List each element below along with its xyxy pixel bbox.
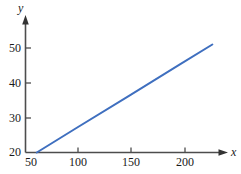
y-tick-label-50: 50	[0, 41, 21, 56]
x-tick-label-50: 50	[25, 155, 37, 170]
x-tick-label-150: 150	[122, 155, 140, 170]
y-axis-arrowhead	[22, 15, 29, 25]
x-tick-label-100: 100	[69, 155, 87, 170]
y-tick-label-20: 20	[0, 145, 21, 160]
x-tick-label-200: 200	[176, 155, 194, 170]
chart-plot-area	[0, 0, 241, 174]
y-tick-label-40: 40	[0, 76, 21, 91]
y-axis-label: y	[18, 1, 23, 16]
y-tick-label-30: 30	[0, 111, 21, 126]
line-chart: y x 50 40 30 20 50 100 150 200	[0, 0, 241, 174]
x-axis-arrowhead	[219, 149, 229, 155]
x-axis-label: x	[231, 145, 236, 160]
data-series-line	[37, 45, 213, 153]
